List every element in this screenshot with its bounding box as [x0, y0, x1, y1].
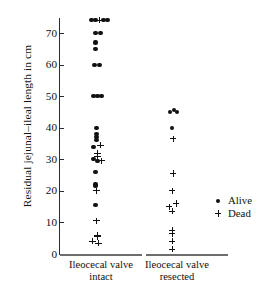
data-point-alive	[99, 94, 103, 98]
data-point-alive	[98, 31, 102, 35]
x-label-group-resected: Ileocecal valve resected	[131, 259, 223, 284]
group-baseline-intact	[60, 254, 142, 256]
y-tick-mark	[59, 159, 64, 160]
data-point-alive	[105, 18, 109, 22]
y-tick-label: 70	[35, 28, 57, 39]
y-tick-label: 10	[35, 217, 57, 228]
data-point-alive	[93, 47, 97, 51]
legend-label-dead: Dead	[228, 207, 251, 220]
y-tick-label: 20	[35, 185, 57, 196]
legend-dot-icon	[214, 194, 226, 207]
data-point-alive	[168, 110, 172, 114]
data-point-alive	[170, 126, 174, 130]
data-point-alive	[93, 40, 97, 44]
y-tick-mark	[59, 191, 64, 192]
legend-label-alive: Alive	[228, 194, 252, 207]
y-tick-label: 50	[35, 91, 57, 102]
y-tick-label: 60	[35, 59, 57, 70]
data-point-alive	[94, 138, 98, 142]
data-point-alive	[93, 31, 97, 35]
y-tick-label: 40	[35, 122, 57, 133]
group-baseline-resected	[146, 254, 228, 256]
dot-plot-chart: Residual jejunal–ileal length in cm 0102…	[0, 0, 272, 294]
y-tick-mark	[59, 222, 64, 223]
y-tick-mark	[59, 128, 64, 129]
data-point-alive	[92, 63, 96, 67]
data-point-alive	[97, 63, 101, 67]
y-axis-line	[59, 18, 60, 255]
x-label-resected-line1: Ileocecal valve	[131, 259, 223, 271]
data-point-alive	[93, 203, 97, 207]
y-tick-mark	[59, 96, 64, 97]
data-point-alive	[94, 126, 98, 130]
data-point-alive	[93, 170, 97, 174]
legend-plus-icon	[214, 207, 226, 220]
data-point-alive	[91, 145, 95, 149]
data-point-alive	[175, 110, 179, 114]
y-tick-label: 30	[35, 154, 57, 165]
x-label-resected-line2: resected	[131, 271, 223, 283]
y-tick-label: 0	[35, 249, 57, 260]
y-tick-mark	[59, 65, 64, 66]
y-tick-mark	[59, 33, 64, 34]
